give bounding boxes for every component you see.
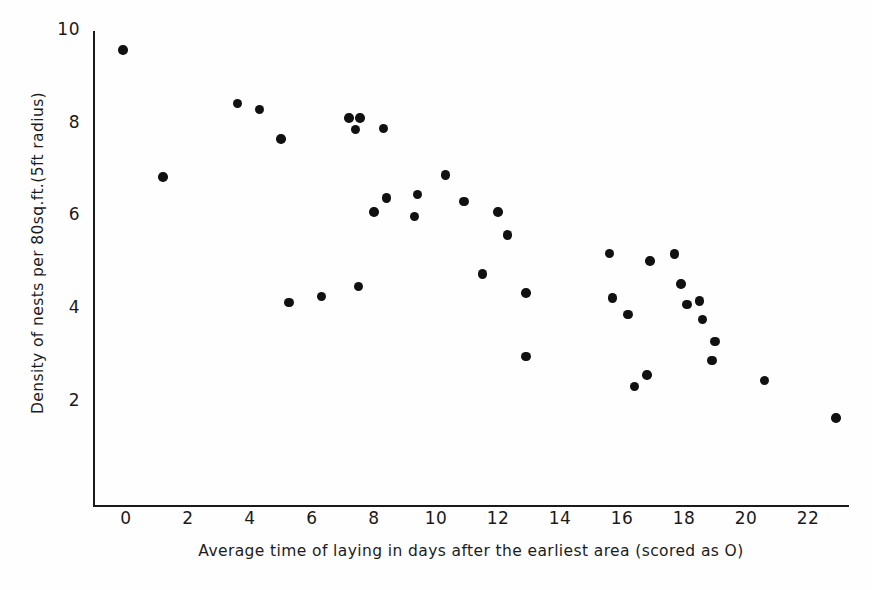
data-point — [478, 269, 488, 279]
data-point — [695, 296, 705, 306]
x-tick-label: 4 — [230, 508, 270, 528]
y-tick-label: 4 — [46, 297, 80, 317]
x-tick-minor — [0, 202, 1, 212]
data-point — [760, 376, 770, 386]
x-tick-label: 0 — [106, 508, 146, 528]
x-tick-minor — [0, 242, 1, 252]
plot-area: 246810 0246810121416182022 Density of ne… — [0, 0, 872, 590]
data-point — [831, 413, 841, 423]
y-axis-title: Density of nests per 80sq.ft.(5ft radius… — [29, 33, 47, 473]
data-point — [521, 352, 531, 362]
y-tick-label: 8 — [46, 112, 80, 132]
x-tick-major — [0, 52, 1, 65]
x-tick-label: 18 — [664, 508, 704, 528]
data-point — [503, 230, 513, 240]
x-tick-major — [0, 130, 1, 143]
x-tick-major — [0, 104, 1, 117]
data-point — [369, 207, 379, 217]
x-tick-label: 2 — [168, 508, 208, 528]
data-point — [276, 134, 286, 144]
data-point — [707, 356, 717, 366]
x-axis-ticks — [0, 26, 872, 302]
x-tick-label: 12 — [478, 508, 518, 528]
data-point — [521, 288, 531, 298]
x-tick-minor — [0, 252, 1, 262]
x-tick-major — [0, 143, 1, 156]
y-tick-label: 10 — [46, 19, 80, 39]
data-point — [441, 170, 451, 180]
x-tick-major — [0, 78, 1, 91]
x-tick-label: 22 — [788, 508, 828, 528]
x-tick-label: 14 — [540, 508, 580, 528]
data-point — [710, 337, 720, 347]
x-tick-label: 8 — [354, 508, 394, 528]
x-tick-minor — [0, 212, 1, 222]
x-tick-major — [0, 65, 1, 78]
x-tick-major — [0, 26, 1, 39]
x-tick-label: 10 — [416, 508, 456, 528]
x-tick-major — [0, 91, 1, 104]
data-point — [317, 292, 327, 302]
y-axis-ticks — [0, 0, 872, 26]
y-tick-label: 2 — [46, 390, 80, 410]
data-point — [623, 310, 633, 320]
data-point — [344, 113, 354, 123]
data-point — [158, 172, 168, 182]
x-tick-label: 6 — [292, 508, 332, 528]
x-tick-major — [0, 156, 1, 169]
data-point — [379, 124, 389, 134]
data-point — [284, 298, 294, 308]
x-tick-minor — [0, 232, 1, 242]
x-tick-minor — [0, 292, 1, 302]
scatter-plot-figure: 246810 0246810121416182022 Density of ne… — [0, 0, 872, 590]
data-point — [355, 113, 365, 123]
data-point — [642, 370, 652, 380]
x-tick-minor — [0, 182, 1, 192]
data-point — [676, 279, 686, 289]
x-tick-minor — [0, 222, 1, 232]
data-point — [382, 193, 392, 203]
x-tick-minor — [0, 272, 1, 282]
x-axis-line — [93, 505, 849, 507]
x-tick-minor — [0, 282, 1, 292]
x-axis-title: Average time of laying in days after the… — [93, 542, 849, 560]
x-tick-major — [0, 169, 1, 182]
data-point — [645, 256, 655, 266]
data-point — [118, 45, 128, 55]
x-tick-label: 16 — [602, 508, 642, 528]
data-point — [493, 207, 503, 217]
x-tick-minor — [0, 192, 1, 202]
x-tick-minor — [0, 262, 1, 272]
data-point — [698, 315, 708, 325]
data-point — [630, 382, 640, 392]
y-axis-line — [93, 31, 95, 506]
y-tick-label: 6 — [46, 204, 80, 224]
data-point — [682, 300, 692, 310]
x-tick-major — [0, 117, 1, 130]
x-tick-major — [0, 39, 1, 52]
x-tick-label: 20 — [726, 508, 766, 528]
data-point — [459, 197, 469, 207]
